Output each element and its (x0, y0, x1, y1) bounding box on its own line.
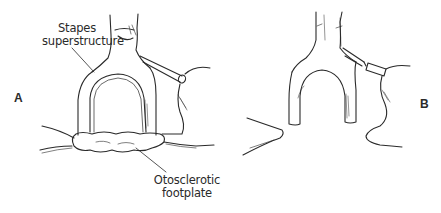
label-otosclerotic-footplate: Otosclerotic footplate (152, 174, 222, 200)
label-line-footplate: footplate (152, 187, 222, 200)
panel-b-drawing (243, 12, 410, 155)
stapes-figure: Stapes superstructure Otosclerotic footp… (0, 0, 441, 213)
label-line-superstructure: superstructure (42, 35, 108, 48)
label-stapes-superstructure: Stapes superstructure (46, 22, 108, 48)
panel-letter-b: B (420, 97, 429, 111)
panel-letter-a: A (14, 91, 23, 105)
